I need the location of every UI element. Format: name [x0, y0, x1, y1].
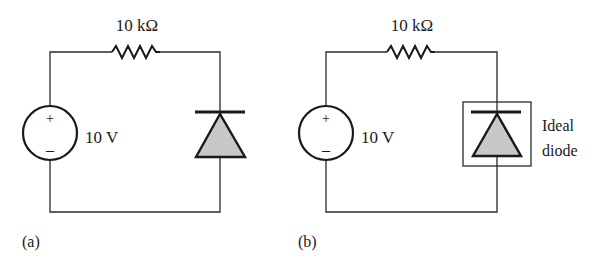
- caption-b: (b): [298, 233, 317, 251]
- source-label: 10 V: [361, 128, 395, 147]
- resistor-label: 10 kΩ: [116, 16, 158, 35]
- source-plus-sign: +: [46, 111, 54, 126]
- circuit-a: 10 kΩ + – 10 V (a): [22, 16, 245, 251]
- diode-icon: [196, 114, 245, 157]
- source-minus-sign: –: [321, 141, 331, 158]
- caption-a: (a): [22, 233, 40, 251]
- source-minus-sign: –: [45, 141, 55, 158]
- resistor-icon: [112, 46, 160, 58]
- source-plus-sign: +: [322, 111, 330, 126]
- circuit-diagram: 10 kΩ + – 10 V (a) 10 kΩ + – 10 V Ideal …: [0, 0, 612, 273]
- ideal-diode-label-line1: Ideal: [542, 117, 575, 134]
- source-label: 10 V: [85, 128, 119, 147]
- diode-icon: [473, 114, 521, 156]
- circuit-b: 10 kΩ + – 10 V Ideal diode (b): [298, 16, 578, 251]
- ideal-diode-label-line2: diode: [542, 142, 578, 159]
- resistor-label: 10 kΩ: [391, 16, 433, 35]
- resistor-icon: [387, 46, 435, 58]
